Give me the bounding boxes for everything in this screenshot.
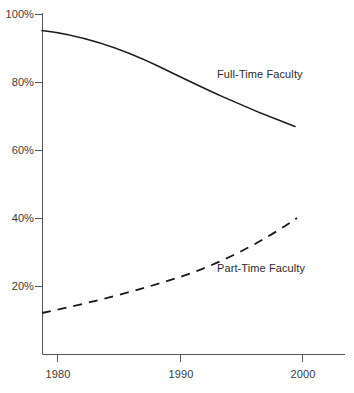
y-tick-label-60: 60% bbox=[0, 144, 34, 156]
y-tick-label-100: 100% bbox=[0, 8, 34, 20]
y-tick-label-20: 20% bbox=[0, 280, 34, 292]
x-axis-ticks bbox=[58, 355, 303, 363]
y-tick-label-40: 40% bbox=[0, 212, 34, 224]
y-tick-label-80: 80% bbox=[0, 76, 34, 88]
line-chart: 100% 80% 60% 40% 20% 1980 1990 2000 Full… bbox=[0, 0, 354, 393]
x-tick-label-1980: 1980 bbox=[36, 368, 80, 380]
series-label-part-time: Part-Time Faculty bbox=[217, 262, 305, 274]
x-tick-label-1990: 1990 bbox=[159, 368, 203, 380]
y-axis-ticks bbox=[35, 15, 43, 287]
chart-canvas bbox=[0, 0, 354, 393]
x-tick-label-2000: 2000 bbox=[281, 368, 325, 380]
series-label-full-time: Full-Time Faculty bbox=[217, 68, 303, 80]
